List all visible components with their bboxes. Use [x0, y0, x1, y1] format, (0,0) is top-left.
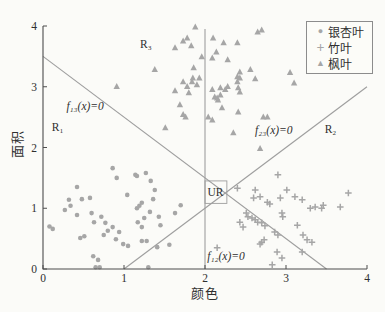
- point-maple: [186, 89, 192, 95]
- point-ginkgo: [135, 174, 140, 179]
- legend-label-maple: 枫叶: [328, 55, 352, 73]
- point-ginkgo: [142, 216, 147, 221]
- point-bamboo: [279, 210, 286, 217]
- point-bamboo: [275, 172, 282, 179]
- point-maple: [237, 68, 243, 74]
- point-ginkgo: [121, 242, 126, 247]
- line-f12-label: f₁₂(x)=0: [207, 250, 245, 263]
- point-bamboo: [257, 193, 264, 200]
- point-ginkgo: [114, 176, 119, 181]
- point-ginkgo: [110, 225, 115, 230]
- point-maple: [162, 124, 168, 130]
- point-bamboo: [307, 205, 314, 212]
- point-bamboo: [312, 204, 319, 211]
- point-bamboo: [345, 190, 352, 197]
- point-ginkgo: [140, 239, 145, 244]
- point-ginkgo: [110, 166, 115, 171]
- point-ginkgo: [68, 204, 73, 209]
- point-maple: [230, 129, 236, 135]
- point-maple: [199, 53, 205, 59]
- legend-plus-marker-icon: +: [313, 41, 328, 55]
- point-maple: [210, 34, 216, 40]
- point-ginkgo: [75, 185, 80, 190]
- point-ginkgo: [80, 197, 85, 202]
- point-maple: [188, 42, 194, 48]
- point-ginkgo: [91, 254, 96, 259]
- point-bamboo: [279, 213, 286, 220]
- point-bamboo: [250, 195, 257, 202]
- point-bamboo: [269, 261, 276, 268]
- point-ginkgo: [167, 242, 172, 247]
- point-maple: [196, 75, 202, 81]
- point-maple: [264, 113, 270, 119]
- point-maple: [184, 34, 190, 40]
- point-maple: [172, 44, 178, 50]
- point-ginkgo: [114, 237, 119, 242]
- point-bamboo: [240, 224, 247, 231]
- y-tick-label: 1: [31, 202, 37, 214]
- point-maple: [224, 56, 230, 62]
- point-bamboo: [279, 255, 286, 262]
- point-maple: [252, 75, 258, 81]
- point-maple: [291, 79, 297, 85]
- point-maple: [234, 39, 240, 45]
- region-r3-label: R₃: [140, 38, 152, 50]
- point-ginkgo: [89, 211, 94, 216]
- point-ginkgo: [148, 210, 153, 215]
- figure-canvas: 0123401234R₁R₂R₃f₁₃(x)=0f₂₃(x)=0f₁₂(x)=0…: [0, 0, 385, 312]
- point-maple: [224, 83, 230, 89]
- point-maple: [235, 84, 241, 90]
- point-maple: [192, 24, 198, 30]
- point-maple: [209, 54, 215, 60]
- y-tick-label: 4: [31, 20, 37, 32]
- point-ginkgo: [67, 197, 72, 202]
- legend-item-maple: ▲ 枫叶: [313, 56, 372, 71]
- point-ginkgo: [101, 233, 106, 238]
- point-maple: [190, 64, 196, 70]
- line-f23-label: f₂₃(x)=0: [255, 124, 293, 137]
- point-ginkgo: [178, 203, 183, 208]
- point-ginkgo: [78, 236, 83, 241]
- point-ginkgo: [140, 200, 145, 205]
- region-r1-label: R₁: [52, 121, 64, 133]
- point-ginkgo: [117, 230, 122, 235]
- point-ginkgo: [173, 211, 178, 216]
- point-ginkgo: [152, 188, 157, 193]
- point-maple: [287, 69, 293, 75]
- point-maple: [205, 113, 211, 119]
- point-maple: [259, 27, 265, 33]
- point-bamboo: [294, 222, 301, 229]
- point-bamboo: [299, 196, 306, 203]
- ur-label: UR: [208, 186, 224, 198]
- point-bamboo: [337, 204, 344, 211]
- point-bamboo: [274, 249, 281, 256]
- region-r2-label: R₂: [325, 123, 337, 135]
- point-maple: [190, 75, 196, 81]
- point-ginkgo: [96, 258, 101, 263]
- point-ginkgo: [106, 228, 111, 233]
- point-ginkgo: [155, 245, 160, 250]
- point-bamboo: [292, 193, 299, 200]
- point-ginkgo: [99, 214, 104, 219]
- y-axis-label: 面积: [7, 112, 26, 176]
- point-maple: [172, 87, 178, 93]
- point-maple: [152, 66, 158, 72]
- point-ginkgo: [135, 220, 140, 225]
- y-tick-label: 3: [31, 81, 37, 93]
- point-ginkgo: [126, 244, 131, 249]
- point-maple: [180, 78, 186, 84]
- point-bamboo: [277, 195, 284, 202]
- point-maple: [217, 84, 223, 90]
- point-ginkgo: [151, 197, 156, 202]
- point-bamboo: [237, 219, 244, 226]
- point-maple: [257, 145, 263, 151]
- point-ginkgo: [144, 171, 149, 176]
- y-tick-label: 2: [31, 142, 37, 154]
- point-ginkgo: [158, 223, 163, 228]
- point-ginkgo: [63, 208, 68, 213]
- point-ginkgo: [140, 225, 145, 230]
- point-ginkgo: [82, 234, 87, 239]
- point-maple: [219, 104, 225, 110]
- line-f23: [124, 87, 367, 269]
- point-bamboo: [252, 187, 259, 194]
